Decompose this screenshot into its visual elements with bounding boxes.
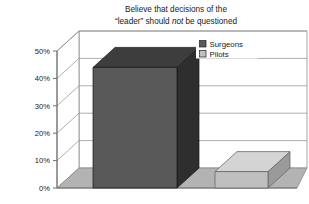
y-tick-label-30: 30% (35, 102, 50, 111)
y-tick-label-10: 10% (35, 156, 50, 165)
bar-surgeons (93, 47, 199, 188)
bar-pilots-front-face (215, 172, 268, 188)
y-tick-label-0: 0% (39, 184, 50, 193)
legend-label-surgeons[interactable]: Surgeons (210, 40, 243, 49)
chart-title-emphasis: not (172, 17, 184, 26)
chart-container: Believe that decisions of the “leader” s… (0, 0, 309, 204)
plot-left-wall (57, 31, 79, 188)
y-tick-label-50: 50% (35, 47, 50, 56)
legend-label-pilots[interactable]: Pilots (210, 50, 229, 59)
y-tick-label-20: 20% (35, 129, 50, 138)
bar-surgeons-side-face (177, 47, 199, 188)
legend: Surgeons Pilots (196, 37, 258, 59)
legend-swatch-surgeons[interactable] (200, 41, 207, 48)
chart-title-line-1: Believe that decisions of the (125, 5, 227, 14)
y-tick-label-40: 40% (35, 74, 50, 83)
chart-svg: Believe that decisions of the “leader” s… (0, 0, 309, 204)
chart-title-line-2: “leader” should not be questioned (115, 17, 237, 26)
chart-title-part-b: be questioned (183, 17, 237, 26)
legend-swatch-pilots[interactable] (200, 51, 207, 58)
y-axis-ticks (53, 51, 57, 188)
bar-surgeons-front-face (93, 67, 177, 188)
chart-title-part-a: “leader” should (115, 17, 172, 26)
